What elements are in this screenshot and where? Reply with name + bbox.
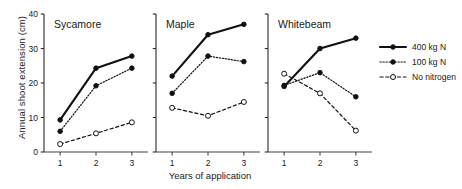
panel-title: Maple [166,18,195,30]
data-point [241,99,246,104]
x-tick-label: 2 [318,158,323,168]
panel-title: Whitebeam [278,18,331,30]
legend-marker-0 [391,45,396,50]
x-tick-label: 3 [353,158,358,168]
data-point [354,36,359,41]
figure-container: Annual shoot extension (cm) Years of app… [0,0,462,189]
data-point [58,129,63,134]
data-point [129,120,134,125]
y-tick-label: 30 [29,44,39,54]
data-point [353,128,358,133]
y-tick-label: 40 [29,9,39,19]
data-point [58,142,63,147]
x-tick-label: 1 [170,158,175,168]
data-point [170,74,175,79]
data-point [206,32,211,37]
data-point [206,54,211,59]
x-tick-label: 1 [282,158,287,168]
y-tick-label: 20 [29,78,39,88]
data-point [130,54,135,59]
y-tick-label: 0 [33,147,38,157]
x-tick-label: 2 [94,158,99,168]
legend: 400 kg N100 kg NNo nitrogen [380,42,456,82]
data-point [318,46,323,51]
x-tick-label: 3 [129,158,134,168]
data-point [242,59,247,64]
panel-whitebeam: 123Whitebeam [265,14,372,168]
legend-marker-2 [391,75,396,80]
data-point [206,113,211,118]
data-point [94,131,99,136]
x-tick-label: 3 [241,158,246,168]
data-point [94,83,99,88]
data-point [282,71,287,76]
legend-label-2: No nitrogen [412,72,456,82]
data-point [94,66,99,71]
data-point [170,105,175,110]
legend-marker-1 [391,60,396,65]
panel-title: Sycamore [54,18,101,30]
series-line-100-kg-n [172,56,244,93]
data-point [282,83,287,88]
data-point [170,91,175,96]
y-tick-label: 10 [29,113,39,123]
series-line-100-kg-n [60,68,132,131]
multi-panel-line-chart: 010203040123Sycamore123Maple123Whitebeam… [0,0,462,189]
data-point [242,22,247,27]
series-line-no-nitrogen [284,74,356,131]
panel-maple: 123Maple [153,14,260,168]
data-point [318,70,323,75]
data-point [354,95,359,100]
data-point [58,118,63,123]
data-point [318,91,323,96]
panel-sycamore: 010203040123Sycamore [29,9,148,168]
x-tick-label: 1 [58,158,63,168]
legend-label-0: 400 kg N [412,42,446,52]
x-tick-label: 2 [206,158,211,168]
legend-label-1: 100 kg N [412,57,446,67]
data-point [130,66,135,71]
